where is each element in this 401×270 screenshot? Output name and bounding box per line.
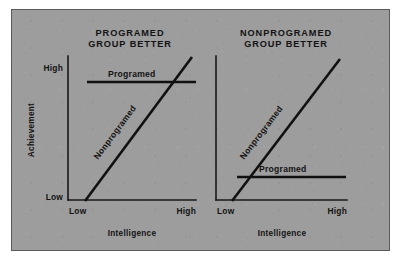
chart-left-series-programed-label: Programed [108, 69, 156, 79]
chart-right: NONPROGRAMED GROUP BETTER Low High Intel… [216, 28, 347, 238]
chart-right-x-tick-high: High [328, 206, 347, 216]
chart-left-title-line-2: GROUP BETTER [88, 39, 172, 49]
chart-right-x-tick-low: Low [217, 206, 235, 216]
chart-right-title-line-2: GROUP BETTER [244, 39, 328, 49]
chart-left-series-nonprogramed-label: Nonprogramed [92, 103, 139, 161]
chart-left-x-axis-title: Intelligence [108, 229, 157, 238]
chart-right-series-nonprogramed-line [232, 59, 340, 201]
chart-left-x-tick-high: High [177, 206, 196, 216]
chart-right-title-line-1: NONPROGRAMED [240, 28, 332, 38]
chart-left-y-tick-high: High [44, 63, 63, 73]
chart-left-title-line-1: PROGRAMED [96, 28, 165, 38]
chart-left-x-tick-low: Low [69, 206, 87, 216]
two-panel-line-chart: PROGRAMED GROUP BETTER High Low Low High… [0, 0, 401, 270]
chart-right-series-programed-label: Programed [259, 164, 307, 174]
chart-left: PROGRAMED GROUP BETTER High Low Low High… [27, 28, 196, 238]
chart-left-y-axis-title: Achievement [27, 103, 36, 157]
chart-right-x-axis-title: Intelligence [258, 229, 307, 238]
chart-left-y-tick-low: Low [46, 192, 64, 202]
chart-right-series-nonprogramed-label: Nonprogramed [238, 104, 285, 161]
figure-container: PROGRAMED GROUP BETTER High Low Low High… [0, 0, 401, 270]
